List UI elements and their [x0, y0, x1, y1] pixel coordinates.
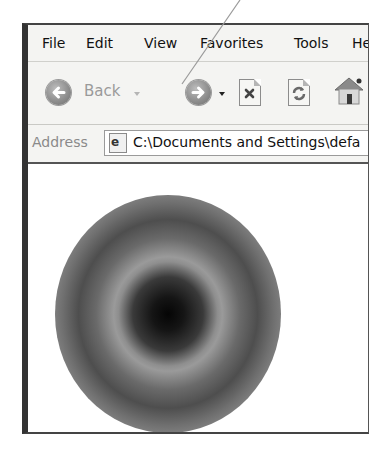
home-button[interactable]: [332, 75, 366, 107]
menu-file[interactable]: File: [42, 35, 65, 51]
menu-help[interactable]: He: [352, 35, 369, 51]
back-arrow-icon: [46, 80, 71, 105]
page-content: [28, 162, 368, 434]
concentric-rings-image: [55, 195, 281, 433]
menu-edit[interactable]: Edit: [86, 35, 113, 51]
menu-bar: File Edit View Favorites Tools He: [28, 25, 368, 62]
address-bar: Address e C:\Documents and Settings\defa: [28, 125, 368, 162]
menu-favorites[interactable]: Favorites: [200, 35, 263, 51]
forward-arrow-icon: [186, 80, 211, 105]
forward-history-dropdown[interactable]: [219, 92, 225, 96]
back-history-dropdown[interactable]: [134, 92, 140, 96]
home-icon: [332, 75, 366, 107]
menu-view[interactable]: View: [144, 35, 177, 51]
menu-tools[interactable]: Tools: [294, 35, 329, 51]
refresh-button[interactable]: [288, 79, 310, 106]
address-value: C:\Documents and Settings\defa: [133, 134, 360, 150]
address-input[interactable]: e C:\Documents and Settings\defa: [104, 130, 369, 156]
forward-button[interactable]: [186, 80, 211, 105]
browser-window: File Edit View Favorites Tools He Back: [22, 23, 369, 434]
stop-button[interactable]: [239, 79, 261, 106]
page-icon: e: [109, 133, 127, 153]
toolbar: Back: [28, 62, 368, 125]
address-label: Address: [32, 134, 88, 150]
back-label: Back: [84, 82, 120, 100]
